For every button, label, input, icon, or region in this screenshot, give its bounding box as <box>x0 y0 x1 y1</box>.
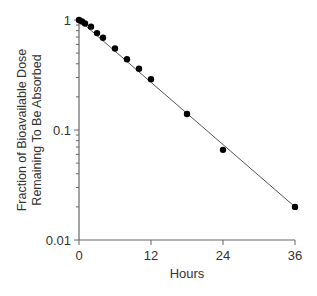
data-point <box>100 35 106 41</box>
data-point <box>88 23 94 29</box>
y-axis-label-line-2: Remaining To Be Absorbed <box>30 54 44 205</box>
x-tick-label: 12 <box>144 248 158 263</box>
data-point <box>94 30 100 36</box>
data-point <box>124 56 130 62</box>
data-point <box>136 66 142 72</box>
data-point <box>148 76 154 82</box>
x-tick-label: 36 <box>288 248 302 263</box>
y-tick-label: 1 <box>64 13 71 28</box>
x-tick-label: 24 <box>216 248 230 263</box>
data-point <box>112 45 118 51</box>
data-point <box>184 111 190 117</box>
data-point <box>82 20 88 26</box>
y-tick-label: 0.01 <box>46 233 71 248</box>
axes: 0.010.110122436 <box>46 13 303 263</box>
chart: 0.010.110122436 Hours Fraction of Bioava… <box>0 0 317 296</box>
x-tick-label: 0 <box>75 248 82 263</box>
data-point <box>292 204 298 210</box>
y-axis-label-line-1: Fraction of Bioavailable Dose <box>15 49 29 212</box>
data-point <box>220 147 226 153</box>
y-tick-label: 0.1 <box>53 123 71 138</box>
x-axis-label: Hours <box>170 266 205 281</box>
